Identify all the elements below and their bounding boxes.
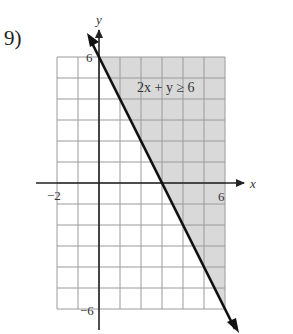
y-axis-label: y — [94, 12, 102, 27]
y-max-tick-label: 6 — [86, 50, 93, 65]
x-min-tick-label: −2 — [47, 188, 61, 203]
x-axis-label: x — [249, 176, 256, 191]
x-max-tick-label: 6 — [218, 189, 225, 204]
inequality-graph: y x −2 6 6 −6 2x + y ≥ 6 — [0, 0, 293, 334]
inequality-label: 2x + y ≥ 6 — [137, 80, 195, 95]
arrowhead-top-icon — [87, 33, 99, 47]
arrowhead-bottom-icon — [227, 318, 239, 333]
y-min-tick-label: −6 — [80, 303, 94, 318]
